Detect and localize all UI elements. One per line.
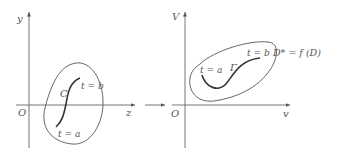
right-panel: V v O Γ t = a t = b D* = f (D)	[171, 11, 321, 148]
curve-gamma-label: Γ	[229, 62, 238, 73]
right-start-label: t = a	[200, 65, 222, 75]
right-end-label: t = b	[247, 48, 270, 58]
mapping-diagram: y z O C t = b t = a V v O Γ t = a t = b …	[0, 0, 337, 157]
left-start-label: t = a	[58, 129, 80, 139]
left-x-axis-label: z	[125, 107, 132, 118]
curve-c	[56, 78, 80, 127]
region-d-star-label: D* = f (D)	[272, 47, 321, 58]
right-v-axis-label: V	[172, 11, 181, 22]
left-origin-label: O	[18, 107, 26, 118]
left-end-label: t = b	[81, 81, 104, 91]
curve-c-label: C	[60, 88, 68, 99]
left-panel: y z O C t = b t = a	[16, 12, 135, 148]
left-y-axis-label: y	[16, 13, 23, 24]
right-origin-label: O	[171, 108, 179, 119]
right-u-axis-label: v	[283, 108, 289, 119]
